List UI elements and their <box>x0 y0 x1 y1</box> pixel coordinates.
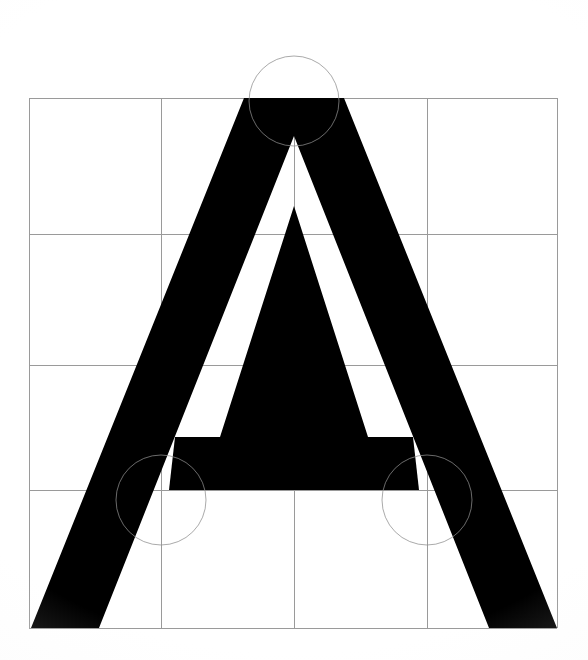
letter-construction-drawing <box>0 0 588 660</box>
type-specimen-canvas: Construction grid drawing of the capital… <box>0 0 588 660</box>
letter-a-crossbar <box>169 437 419 490</box>
